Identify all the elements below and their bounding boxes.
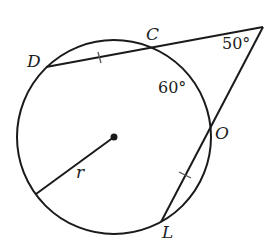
label-d: D [27, 53, 41, 70]
geometry-diagram: D C O L r 50° 60° [0, 0, 276, 246]
secant-ol [161, 27, 263, 222]
label-o: O [215, 125, 229, 142]
label-r: r [76, 164, 84, 181]
radius [36, 137, 114, 194]
angle-60: 60° [158, 80, 186, 96]
angle-50: 50° [222, 36, 250, 52]
center-point [111, 134, 118, 141]
label-l: L [162, 224, 173, 241]
label-c: C [146, 26, 159, 43]
